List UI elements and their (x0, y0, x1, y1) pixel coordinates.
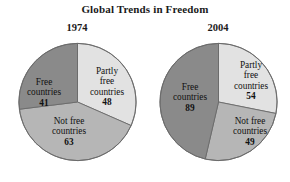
pie-slices-2004 (160, 43, 277, 160)
pie-chart-2004 (158, 41, 279, 163)
pie-svg-1974 (17, 41, 138, 163)
pie-slice-free-2004[interactable] (160, 43, 219, 159)
panel-year-label-2004: 2004 (188, 22, 248, 34)
pie-chart-1974 (17, 41, 138, 163)
pie-svg-2004 (158, 41, 279, 163)
page-title: Global Trends in Freedom (0, 3, 290, 16)
pie-slice-partly-free-2004[interactable] (219, 43, 278, 113)
panel-year-label-1974: 1974 (47, 22, 107, 34)
pie-chart-figure: Global Trends in Freedom 1974 2004 Free … (0, 0, 290, 182)
pie-slices-1974 (19, 43, 136, 160)
pie-slice-free-1974[interactable] (19, 43, 78, 109)
